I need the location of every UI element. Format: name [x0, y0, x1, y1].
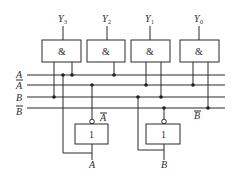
- bus-lines: [27, 75, 225, 108]
- bus-label-a: A: [15, 69, 23, 80]
- output-sub-y0: 0: [200, 19, 203, 25]
- inverter-a-output-label: A: [99, 112, 107, 123]
- and-gate-y1: &: [131, 40, 170, 62]
- output-wires: [63, 26, 199, 40]
- bus-label-b-bar: B: [16, 106, 22, 117]
- and-gate-y2: &: [87, 40, 125, 62]
- inverter-b-output-label: B: [194, 110, 200, 121]
- and-symbol: &: [58, 46, 66, 57]
- output-sub-y2: 2: [108, 19, 111, 25]
- junction-dots: [52, 73, 210, 110]
- not-symbol: 1: [161, 129, 166, 140]
- decoder-circuit-diagram: Y 3 Y 2 Y 1 Y 0 & & & & A A: [0, 0, 239, 179]
- and-symbol: &: [146, 46, 154, 57]
- output-sub-y1: 1: [151, 19, 154, 25]
- inverter-a: 1 A A: [63, 75, 108, 170]
- inverter-b-input-label: B: [161, 159, 167, 170]
- and-gate-y3: &: [42, 40, 81, 62]
- and-gate-y0: &: [180, 40, 219, 62]
- and-symbol: &: [195, 46, 203, 57]
- output-labels: Y 3 Y 2 Y 1 Y 0: [58, 13, 203, 25]
- bus-label-a-bar: A: [15, 80, 23, 91]
- not-symbol: 1: [89, 129, 94, 140]
- bus-labels: A A B B: [15, 69, 23, 117]
- and-symbol: &: [102, 46, 110, 57]
- bus-label-b: B: [16, 92, 22, 103]
- inverter-a-input-label: A: [88, 159, 96, 170]
- output-sub-y3: 3: [64, 19, 67, 25]
